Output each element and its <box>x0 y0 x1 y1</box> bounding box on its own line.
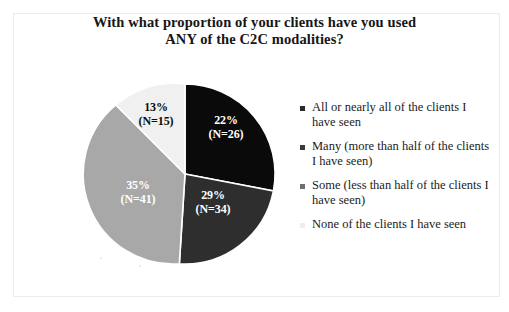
pie-chart: 22% (N=26) 29% (N=34) 35% (N=41) 13% (N=… <box>82 71 288 277</box>
chart-title-line-1: With what proportion of your clients hav… <box>0 14 509 31</box>
legend-swatch-icon <box>300 106 305 111</box>
legend-item-label: Many (more than half of the clients I ha… <box>312 139 490 169</box>
legend-swatch-icon <box>300 184 305 189</box>
legend-item-label: All or nearly all of the clients I have … <box>312 100 490 130</box>
slice-1-percent: 22% <box>214 113 238 127</box>
slice-2-count: (N=34) <box>196 202 231 216</box>
slice-4-count: (N=15) <box>139 114 174 128</box>
slice-3-count: (N=41) <box>121 192 156 206</box>
pie-svg: 22% (N=26) 29% (N=34) 35% (N=41) 13% (N=… <box>82 71 288 277</box>
legend: All or nearly all of the clients I have … <box>300 100 500 241</box>
legend-item-label: Some (less than half of the clients I ha… <box>312 178 490 208</box>
legend-item-some[interactable]: Some (less than half of the clients I ha… <box>300 178 500 208</box>
legend-item-many[interactable]: Many (more than half of the clients I ha… <box>300 139 500 169</box>
slice-1-count: (N=26) <box>209 127 244 141</box>
pie-slice-many[interactable] <box>179 174 273 264</box>
chart-title-line-2: ANY of the C2C modalities? <box>0 31 509 48</box>
legend-item-all-or-nearly-all[interactable]: All or nearly all of the clients I have … <box>300 100 500 130</box>
slice-2-percent: 29% <box>201 188 225 202</box>
scan-speckle <box>100 257 102 259</box>
legend-item-none[interactable]: None of the clients I have seen <box>300 217 500 232</box>
slice-3-percent: 35% <box>126 178 150 192</box>
legend-swatch-icon <box>300 145 305 150</box>
scan-speckle <box>139 265 141 267</box>
chart-title: With what proportion of your clients hav… <box>0 14 509 48</box>
legend-item-label: None of the clients I have seen <box>312 217 466 232</box>
slice-4-percent: 13% <box>144 100 168 114</box>
legend-swatch-icon <box>300 223 305 228</box>
